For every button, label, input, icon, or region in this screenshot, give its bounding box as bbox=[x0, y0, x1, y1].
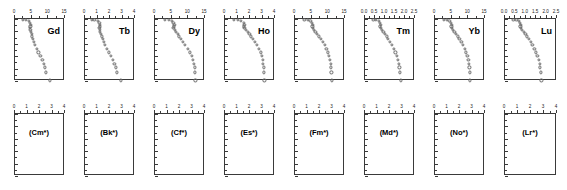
x-tick-label: 5 bbox=[169, 9, 172, 14]
y-tick bbox=[365, 69, 368, 70]
panel-Bk: 01234(Bk*) bbox=[70, 95, 140, 190]
plot-area: Gd bbox=[14, 18, 64, 80]
panel-Tm: 0.00.51.01.52.02.5Tm bbox=[350, 0, 420, 95]
y-tick bbox=[505, 126, 508, 127]
y-tick bbox=[295, 31, 298, 32]
y-tick bbox=[85, 176, 88, 177]
x-axis: 0.00.51.01.52.02.5 bbox=[364, 11, 414, 18]
y-tick bbox=[155, 69, 158, 70]
y-tick-minor bbox=[295, 120, 297, 121]
data-point bbox=[120, 79, 123, 82]
y-tick-minor bbox=[295, 157, 297, 158]
x-tick-label: 4 bbox=[343, 104, 346, 109]
data-point bbox=[539, 66, 542, 69]
x-tick-label: 0.0 bbox=[501, 9, 507, 14]
x-tick-label: 10 bbox=[185, 9, 190, 14]
x-tick-label: 2.5 bbox=[553, 9, 559, 14]
y-tick bbox=[435, 56, 438, 57]
y-tick-minor bbox=[155, 170, 157, 171]
panel-Md: 01234(Md*) bbox=[350, 95, 420, 190]
y-tick-minor bbox=[295, 75, 297, 76]
plot-area: Ho bbox=[224, 18, 274, 80]
y-tick-minor bbox=[15, 145, 17, 146]
data-point bbox=[263, 79, 266, 82]
data-point bbox=[192, 62, 195, 65]
x-tick-label: 1 bbox=[165, 104, 168, 109]
x-tick-label: 0 bbox=[293, 104, 296, 109]
panel-label: Ho bbox=[258, 26, 270, 36]
y-tick bbox=[85, 139, 88, 140]
x-tick bbox=[556, 15, 557, 18]
x-axis: 01234 bbox=[434, 106, 484, 113]
y-tick bbox=[85, 126, 88, 127]
panel-label: (Cm*) bbox=[29, 128, 49, 137]
y-tick bbox=[15, 176, 18, 177]
y-tick bbox=[435, 164, 438, 165]
y-tick bbox=[85, 114, 88, 115]
panel-Ho: 01234Ho bbox=[210, 0, 280, 95]
y-tick bbox=[225, 19, 228, 20]
y-tick-minor bbox=[505, 25, 507, 26]
data-point bbox=[468, 66, 471, 69]
x-tick-label: 0 bbox=[293, 9, 296, 14]
y-tick-minor bbox=[435, 62, 437, 63]
x-tick-label: 15 bbox=[481, 9, 486, 14]
x-tick-label: 10 bbox=[465, 9, 470, 14]
y-tick-minor bbox=[505, 50, 507, 51]
data-point bbox=[262, 71, 265, 74]
x-tick-label: 1 bbox=[95, 9, 98, 14]
data-point bbox=[257, 47, 260, 50]
data-point bbox=[111, 58, 114, 61]
y-tick bbox=[85, 164, 88, 165]
data-point bbox=[232, 18, 235, 21]
data-point bbox=[260, 55, 263, 58]
data-point bbox=[35, 47, 38, 50]
y-tick bbox=[15, 151, 18, 152]
data-point bbox=[327, 55, 330, 58]
y-tick bbox=[15, 81, 18, 82]
x-tick-label: 2 bbox=[458, 104, 461, 109]
y-tick bbox=[15, 31, 18, 32]
data-point bbox=[466, 55, 469, 58]
x-tick-label: 3 bbox=[400, 104, 403, 109]
plot-area: (Bk*) bbox=[84, 113, 134, 175]
x-tick-label: 0 bbox=[223, 104, 226, 109]
y-tick bbox=[225, 139, 228, 140]
x-axis: 01234 bbox=[224, 106, 274, 113]
x-tick-label: 2 bbox=[108, 9, 111, 14]
data-point bbox=[41, 58, 44, 61]
x-tick-label: 3 bbox=[542, 104, 545, 109]
y-tick bbox=[85, 69, 88, 70]
x-tick bbox=[484, 15, 485, 18]
x-axis: 01234 bbox=[504, 106, 556, 113]
data-point bbox=[190, 55, 193, 58]
y-tick-minor bbox=[15, 157, 17, 158]
y-tick-minor bbox=[15, 120, 17, 121]
x-tick-label: 1.0 bbox=[381, 9, 387, 14]
x-tick bbox=[64, 110, 65, 113]
y-tick bbox=[225, 56, 228, 57]
panel-Yb: 051015Yb bbox=[420, 0, 490, 95]
data-point bbox=[396, 58, 399, 61]
y-tick bbox=[225, 176, 228, 177]
y-tick bbox=[155, 114, 158, 115]
panel-label: (Bk*) bbox=[100, 128, 118, 137]
plot-area: Yb bbox=[434, 18, 484, 80]
y-tick bbox=[155, 151, 158, 152]
x-tick-label: 0.5 bbox=[511, 9, 517, 14]
x-axis: 051015 bbox=[294, 11, 344, 18]
x-tick bbox=[484, 110, 485, 113]
y-tick bbox=[365, 151, 368, 152]
y-tick-minor bbox=[85, 170, 87, 171]
y-tick bbox=[155, 164, 158, 165]
y-tick-minor bbox=[85, 75, 87, 76]
data-point bbox=[107, 51, 110, 54]
y-tick bbox=[15, 44, 18, 45]
x-tick bbox=[134, 15, 135, 18]
y-tick-minor bbox=[85, 25, 87, 26]
y-tick-minor bbox=[365, 75, 367, 76]
y-tick bbox=[15, 164, 18, 165]
y-tick-minor bbox=[225, 170, 227, 171]
panel-No: 01234(No*) bbox=[420, 95, 490, 190]
y-tick-minor bbox=[435, 75, 437, 76]
